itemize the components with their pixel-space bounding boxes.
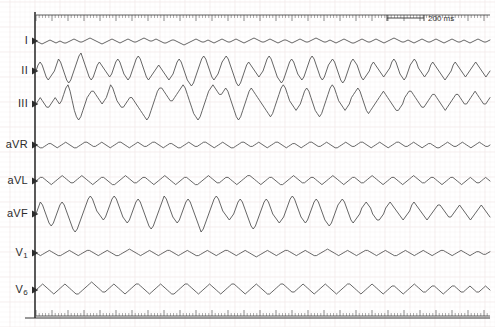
lead-label-avr: aVR [0,138,28,150]
ecg-trace-avf [36,196,490,232]
ecg-trace-v6 [36,282,490,294]
ecg-trace-ii [36,53,490,86]
ecg-trace-v1 [36,249,490,257]
lead-label-subscript: 1 [23,251,28,260]
scalebar-label: 200 ms [428,14,454,23]
ecg-trace-avl [36,176,490,185]
lead-label-iii: III [0,97,28,109]
ecg-figure: IIIIIIaVRaVLaVFV1V6 200 ms [0,0,495,327]
ecg-trace-avr [36,142,490,148]
lead-label-avf: aVF [0,207,28,219]
lead-label-v6: V6 [0,283,28,295]
lead-label-avl: aVL [0,174,28,186]
ecg-trace-i [36,38,490,45]
ecg-traces [0,0,495,327]
lead-label-subscript: 6 [23,288,28,297]
lead-label-i: I [0,34,28,46]
ecg-trace-iii [36,85,490,120]
lead-label-ii: II [0,64,28,76]
lead-label-v1: V1 [0,246,28,258]
